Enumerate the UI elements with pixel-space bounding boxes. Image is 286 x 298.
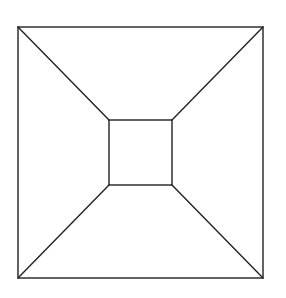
connector-bottom-left [18, 185, 109, 278]
connector-top-right [172, 27, 263, 120]
inner-square [109, 120, 172, 185]
connector-top-left [18, 27, 109, 120]
connector-bottom-right [172, 185, 263, 278]
diagram-canvas [0, 0, 286, 298]
